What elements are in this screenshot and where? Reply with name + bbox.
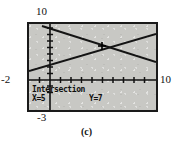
graphing-calculator-screen: Intersection X=5 Y=7 [27, 22, 158, 112]
axis-label-right: 10 [160, 74, 171, 85]
series-line-increasing [29, 34, 156, 71]
series-line-decreasing [42, 26, 156, 62]
calculator-figure: 10 -2 10 -3 [0, 0, 173, 143]
axis-label-left: -2 [1, 74, 10, 85]
axis-label-top: 10 [36, 6, 47, 17]
readout-y-value: Y=7 [89, 95, 102, 103]
figure-caption: (c) [0, 126, 173, 137]
readout-x-value: X=5 [32, 95, 45, 103]
axis-label-bottom: -3 [37, 112, 46, 123]
